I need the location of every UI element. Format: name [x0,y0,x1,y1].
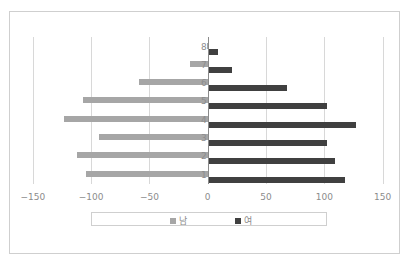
category-label: 7 [201,60,207,70]
zero-axis-line [208,37,209,184]
legend-label-male: 남 [179,214,187,227]
bar-female [208,140,327,146]
category-label: 1 [201,170,207,180]
x-tick-label: −100 [79,192,104,202]
x-tick-label: −50 [140,192,159,202]
bar-female [208,158,335,164]
category-label: 6 [201,78,207,88]
category-label: 2 [201,151,207,161]
bar-male [86,171,207,177]
legend-label-female: 여 [244,214,252,227]
category-label: 8 [201,42,207,52]
bar-female [208,122,356,128]
x-tick-label: 0 [205,192,211,202]
legend: 남 여 [91,212,327,226]
bar-female [208,177,346,183]
bar-male [139,79,208,85]
bar-male [77,152,208,158]
bar-female [208,85,287,91]
legend-swatch-male [170,218,176,224]
gridline [91,37,92,184]
category-label: 4 [201,115,207,125]
bar-female [208,49,218,55]
category-label: 3 [201,133,207,143]
legend-item-male: 남 [170,214,187,227]
legend-item-female: 여 [235,214,252,227]
bar-female [208,103,327,109]
gridline [33,37,34,184]
gridline [383,37,384,184]
x-tick-label: 100 [316,192,333,202]
bar-male [99,134,207,140]
category-label: 5 [201,96,207,106]
x-tick-label: −150 [20,192,45,202]
x-tick-label: 150 [374,192,391,202]
bar-male [64,116,207,122]
bar-male [83,97,208,103]
gridline [149,37,150,184]
legend-swatch-female [235,218,241,224]
bar-female [208,67,232,73]
x-tick-label: 50 [260,192,271,202]
